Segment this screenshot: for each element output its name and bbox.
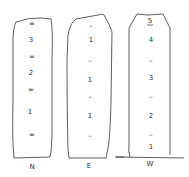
column-w-mark: – xyxy=(149,94,153,101)
column-e-mark: 1 xyxy=(88,77,92,84)
column-e-mark: – xyxy=(88,94,92,101)
column-w-mark: – xyxy=(149,58,153,65)
column-n-mark: = xyxy=(28,87,34,94)
column-w-mark: 4 xyxy=(149,37,153,44)
column-w-mark: 2 xyxy=(149,113,153,120)
column-w-label: W xyxy=(147,161,154,168)
column-n-mark: 1 xyxy=(28,109,32,116)
column-n-mark: 3 xyxy=(29,37,33,44)
column-e-mark: – xyxy=(89,23,93,30)
column-n-label: N xyxy=(29,164,34,171)
column-n-mark: = xyxy=(29,132,35,139)
column-e-mark: – xyxy=(88,58,92,65)
column-e-mark: – xyxy=(88,133,92,140)
column-e-label: E xyxy=(87,163,91,170)
column-w-mark: – xyxy=(149,132,153,139)
column-w-mark: 5 xyxy=(148,18,152,25)
column-n-mark: = xyxy=(29,21,35,28)
column-e-mark: 1 xyxy=(89,37,93,44)
column-w-mark: 3 xyxy=(149,75,153,82)
ground-line xyxy=(115,157,184,158)
column-w-mark: 1 xyxy=(149,144,153,151)
column-n-mark: = xyxy=(29,54,35,61)
column-e-mark: 1 xyxy=(88,113,92,120)
column-n-mark: 2 xyxy=(29,70,33,77)
